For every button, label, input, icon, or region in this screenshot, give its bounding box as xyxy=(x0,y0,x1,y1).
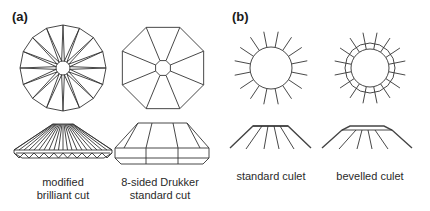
drukker-cut-top-view xyxy=(122,27,203,108)
drukker-cut-side-view xyxy=(115,123,209,164)
caption-brilliant-line1: modified xyxy=(42,176,84,188)
caption-drukker-line2: standard cut xyxy=(130,189,191,201)
caption-brilliant-line2: brilliant cut xyxy=(37,189,90,201)
caption-standard-culet: standard culet xyxy=(236,170,305,182)
panel-label-a: (a) xyxy=(12,9,28,24)
panel-label-b: (b) xyxy=(232,9,249,24)
standard-culet-top-view xyxy=(235,32,308,105)
standard-culet-side-view xyxy=(230,126,311,149)
brilliant-cut-side-view xyxy=(14,124,112,158)
bevelled-culet-top-view xyxy=(335,33,406,104)
caption-bevelled-culet: bevelled culet xyxy=(336,170,403,182)
diamond-cut-diagram: (a) modified brilliant cut 8-sided Drukk… xyxy=(0,0,430,211)
bevelled-culet-side-view xyxy=(322,126,412,149)
caption-drukker-line1: 8-sided Drukker xyxy=(121,176,199,188)
brilliant-cut-top-view xyxy=(20,25,106,111)
